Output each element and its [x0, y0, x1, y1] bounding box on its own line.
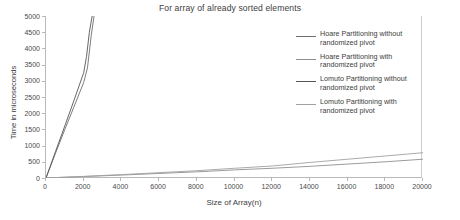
x-tick-mark	[234, 178, 235, 181]
x-tick-label: 6000	[138, 183, 178, 190]
x-tick-mark	[196, 178, 197, 181]
legend-line-icon	[296, 33, 316, 40]
legend-label: Hoare Partitioning without randomized pi…	[320, 30, 402, 47]
x-tick-label: 4000	[100, 183, 140, 190]
x-tick-label: 18000	[364, 183, 404, 190]
x-tick-label: 14000	[289, 183, 329, 190]
x-tick-mark	[158, 178, 159, 181]
legend-label: Lomuto Partitioning with randomized pivo…	[320, 98, 397, 115]
chart-figure: For array of already sorted elements Tim…	[0, 0, 460, 220]
series-line-4	[46, 153, 423, 178]
x-axis-label: Size of Array(n)	[44, 198, 424, 207]
y-tick-label: 2000	[6, 110, 40, 117]
x-tick-label: 20000	[402, 183, 442, 190]
x-tick-label: 10000	[214, 183, 254, 190]
y-tick-label: 5000	[6, 13, 40, 20]
y-tick-label: 3000	[6, 77, 40, 84]
legend-entry-1[interactable]: Hoare Partitioning without randomized pi…	[296, 30, 458, 47]
x-tick-mark	[271, 178, 272, 181]
x-tick-label: 0	[25, 183, 65, 190]
x-tick-mark	[120, 178, 121, 181]
series-line-3	[46, 16, 92, 178]
y-tick-label: 0	[6, 175, 40, 182]
x-tick-mark	[45, 178, 46, 181]
legend-entry-2[interactable]: Hoare Partitioning with randomized pivot	[296, 53, 458, 70]
y-tick-label: 4500	[6, 29, 40, 36]
x-tick-label: 12000	[251, 183, 291, 190]
legend-line-icon	[296, 101, 316, 108]
x-tick-label: 16000	[327, 183, 367, 190]
x-tick-mark	[309, 178, 310, 181]
y-tick-label: 1000	[6, 142, 40, 149]
y-tick-label: 2500	[6, 94, 40, 101]
legend-label: Lomuto Partitioning without randomized p…	[320, 75, 407, 92]
legend-line-icon	[296, 56, 316, 63]
x-tick-label: 2000	[63, 183, 103, 190]
y-tick-label: 4000	[6, 45, 40, 52]
legend-entry-4[interactable]: Lomuto Partitioning with randomized pivo…	[296, 98, 458, 115]
chart-title: For array of already sorted elements	[0, 3, 460, 13]
x-tick-mark	[83, 178, 84, 181]
x-tick-mark	[422, 178, 423, 181]
chart-legend: Hoare Partitioning without randomized pi…	[296, 30, 458, 121]
x-tick-mark	[347, 178, 348, 181]
legend-label: Hoare Partitioning with randomized pivot	[320, 53, 392, 70]
x-tick-mark	[384, 178, 385, 181]
y-tick-label: 1500	[6, 126, 40, 133]
x-tick-label: 8000	[176, 183, 216, 190]
y-tick-label: 500	[6, 158, 40, 165]
legend-line-icon	[296, 78, 316, 85]
series-line-1	[46, 16, 94, 178]
y-tick-label: 3500	[6, 61, 40, 68]
legend-entry-3[interactable]: Lomuto Partitioning without randomized p…	[296, 75, 458, 92]
